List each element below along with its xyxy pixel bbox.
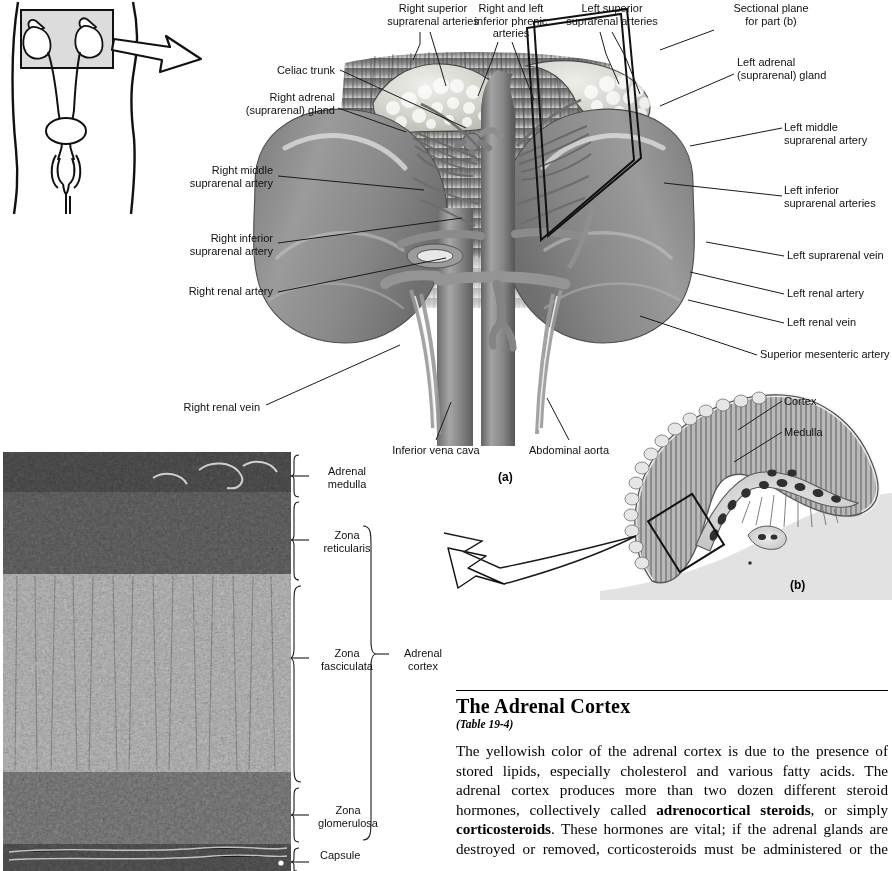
section-heading: The Adrenal Cortex: [456, 695, 888, 718]
label-adrenal-medulla: Adrenal medulla: [316, 465, 378, 490]
term-corticosteroids: corticosteroids: [456, 820, 551, 837]
label-right-middle-suprarenal-artery: Right middle suprarenal artery: [128, 164, 273, 189]
body-paragraph: The yellowish color of the adrenal corte…: [456, 741, 888, 863]
panel-a-identifier: (a): [498, 470, 513, 484]
label-left-suprarenal-vein: Left suprarenal vein: [787, 249, 892, 262]
label-celiac-trunk: Celiac trunk: [255, 64, 335, 77]
part-b-sectional-diagram: [600, 385, 892, 600]
label-left-superior-suprarenal-arteries: Left superior suprarenal arteries: [552, 2, 672, 27]
table-reference: (Table 19-4): [456, 718, 888, 730]
body-text-part2: , or simply: [811, 801, 888, 818]
figure-page: Right superior suprarenal arteries Right…: [0, 0, 892, 871]
label-capsule: Capsule: [320, 849, 390, 862]
adrenal-gland-micrograph: [3, 452, 291, 871]
label-right-renal-vein: Right renal vein: [150, 401, 260, 414]
label-left-renal-artery: Left renal artery: [787, 287, 892, 300]
label-medulla: Medulla: [784, 426, 854, 439]
label-cortex: Cortex: [784, 395, 854, 408]
label-left-adrenal-suprarenal-gland: Left adrenal (suprarenal) gland: [737, 56, 847, 81]
label-left-renal-vein: Left renal vein: [787, 316, 892, 329]
panel-b-identifier: (b): [790, 578, 805, 592]
label-zona-reticularis: Zona reticularis: [316, 529, 378, 554]
body-paragraph-clip: The yellowish color of the adrenal corte…: [456, 741, 888, 863]
label-right-and-left-inferior-phrenic-arteries: Right and left inferior phrenic arteries: [461, 2, 561, 40]
label-right-inferior-suprarenal-artery: Right inferior suprarenal artery: [128, 232, 273, 257]
label-adrenal-cortex: Adrenal cortex: [394, 647, 452, 672]
article-text-column: The Adrenal Cortex (Table 19-4) The yell…: [456, 690, 888, 863]
label-superior-mesenteric-artery: Superior mesenteric artery: [760, 348, 892, 361]
term-adrenocortical-steroids: adrenocortical steroids: [656, 801, 810, 818]
label-sectional-plane-for-part-b: Sectional plane for part (b): [716, 2, 826, 27]
label-zona-glomerulosa: Zona glomerulosa: [313, 804, 383, 829]
label-right-adrenal-suprarenal-gland: Right adrenal (suprarenal) gland: [215, 91, 335, 116]
label-right-renal-artery: Right renal artery: [143, 285, 273, 298]
label-zona-fasciculata: Zona fasciculata: [316, 647, 378, 672]
heading-rule: [456, 690, 888, 691]
label-left-inferior-suprarenal-arteries: Left inferior suprarenal arteries: [784, 184, 892, 209]
label-left-middle-suprarenal-artery: Left middle suprarenal artery: [784, 121, 892, 146]
